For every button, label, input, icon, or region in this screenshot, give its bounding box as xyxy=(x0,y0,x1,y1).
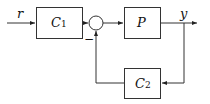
minus-sign: − xyxy=(84,33,94,45)
feedback-path-right xyxy=(162,23,184,83)
c1-main: C xyxy=(51,15,61,30)
c2-subscript: 2 xyxy=(145,80,151,90)
block-c1-label: C1 xyxy=(51,16,67,29)
feedback-path-left xyxy=(96,31,124,83)
input-label-r: r xyxy=(17,7,23,20)
block-diagram xyxy=(0,0,210,104)
block-c2-label: C2 xyxy=(135,77,151,90)
summing-junction xyxy=(89,16,103,30)
c2-main: C xyxy=(135,76,145,91)
output-label-y: y xyxy=(180,7,187,20)
block-p-label: P xyxy=(137,16,146,29)
c1-subscript: 1 xyxy=(61,19,67,29)
